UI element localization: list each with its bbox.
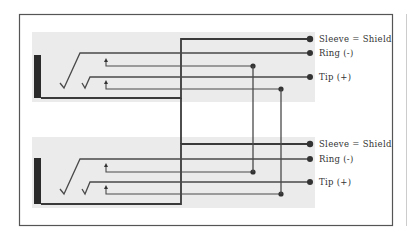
top-jack-panel (32, 32, 315, 102)
tip-label: Tip (+) (319, 72, 351, 82)
tip-label: Tip (+) (319, 177, 351, 187)
sleeve-terminal-dot (307, 141, 313, 147)
bottom-jack: Sleeve = Shield Ring (-) Tip (+) (32, 137, 392, 208)
sleeve-label: Sleeve = Shield (319, 139, 392, 149)
sleeve-label: Sleeve = Shield (319, 34, 392, 44)
tip-terminal-dot (307, 74, 313, 80)
ring-terminal-dot (307, 156, 313, 162)
top-jack: Sleeve = Shield Ring (-) Tip (+) (32, 32, 392, 102)
sleeve-contact-bar (34, 158, 41, 204)
ring-terminal-dot (307, 50, 313, 56)
sleeve-contact-bar (34, 55, 41, 98)
ring-label: Ring (-) (319, 154, 354, 164)
ring-label: Ring (-) (319, 48, 354, 58)
trs-jack-wiring-diagram: Sleeve = Shield Ring (-) Tip (+) Sleeve … (0, 0, 408, 230)
sleeve-terminal-dot (307, 36, 313, 42)
tip-terminal-dot (307, 179, 313, 185)
